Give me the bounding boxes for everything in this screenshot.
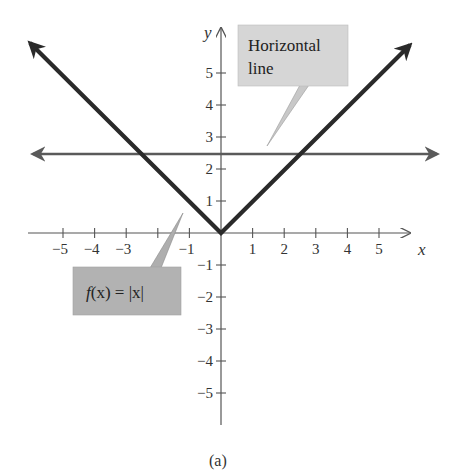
- absolute-value-graph: x y −5−4−3−112345 54321−1−2−3−4−5 Horizo…: [0, 0, 458, 475]
- x-tick-label: −5: [52, 241, 68, 257]
- y-tick-label: −2: [197, 289, 213, 305]
- x-tick-label: 3: [312, 241, 320, 257]
- x-tick-label: 2: [280, 241, 288, 257]
- abs-value-curve: [30, 43, 410, 233]
- axes: x y: [28, 23, 426, 425]
- y-tick-label: −1: [197, 257, 213, 273]
- x-axis-label: x: [417, 240, 426, 259]
- callout-horizontal-line-text-1: Horizontal: [248, 36, 321, 55]
- y-tick-label: −4: [197, 353, 213, 369]
- callout-abs-function-text: f(x) = |x|: [86, 283, 144, 302]
- y-tick-label: 4: [206, 97, 214, 113]
- y-tick-label: 3: [206, 129, 214, 145]
- y-tick-label: −3: [197, 321, 213, 337]
- x-tick-label: −3: [115, 241, 131, 257]
- y-tick-label: 5: [206, 65, 214, 81]
- x-tick-label: −4: [84, 241, 100, 257]
- y-axis-label: y: [202, 23, 212, 42]
- y-tick-label: −5: [197, 385, 213, 401]
- callout-abs-function: f(x) = |x|: [73, 213, 183, 315]
- x-tick-label: 4: [344, 241, 352, 257]
- x-tick-label: 5: [375, 241, 383, 257]
- callout-horizontal-line-text-2: line: [248, 59, 274, 78]
- callout-horizontal-line: Horizontal line: [238, 25, 348, 146]
- y-tick-label: 1: [206, 193, 214, 209]
- x-tick-label: −1: [178, 241, 194, 257]
- y-tick-label: 2: [206, 161, 214, 177]
- figure-caption: (a): [209, 452, 227, 470]
- x-tick-label: 1: [249, 241, 257, 257]
